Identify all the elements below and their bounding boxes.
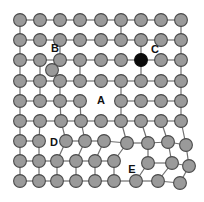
lattice-diagram: BCADE bbox=[0, 0, 204, 202]
lattice-atom bbox=[33, 135, 46, 148]
lattice-atom bbox=[115, 54, 128, 67]
lattice-atom bbox=[108, 155, 121, 168]
lattice-atom bbox=[175, 95, 188, 108]
interstitial-atom bbox=[46, 64, 59, 77]
lattice-atom bbox=[135, 34, 148, 47]
lattice-atom bbox=[115, 34, 128, 47]
lattice-atom bbox=[89, 175, 102, 188]
lattice-atom bbox=[14, 135, 27, 148]
lattice-atom bbox=[74, 54, 87, 67]
lattice-atom bbox=[130, 175, 143, 188]
caption-strip bbox=[0, 194, 204, 202]
lattice-atom bbox=[33, 155, 46, 168]
lattice-atom bbox=[175, 14, 188, 27]
lattice-atom bbox=[142, 157, 155, 170]
lattice-atom bbox=[51, 175, 64, 188]
defect-label-c: C bbox=[151, 43, 159, 55]
lattice-atom bbox=[155, 115, 168, 128]
lattice-atom bbox=[135, 14, 148, 27]
lattice-atom bbox=[14, 95, 27, 108]
defect-label-d: D bbox=[50, 136, 58, 148]
lattice-atom bbox=[34, 95, 47, 108]
lattice-atom bbox=[14, 54, 27, 67]
lattice-atom bbox=[14, 155, 27, 168]
lattice-atom bbox=[54, 95, 67, 108]
lattice-atom bbox=[135, 75, 148, 88]
lattice-atom bbox=[166, 157, 179, 170]
lattice-atom bbox=[95, 34, 108, 47]
lattice-atom bbox=[70, 175, 83, 188]
lattice-atom bbox=[142, 137, 155, 150]
lattice-atom bbox=[155, 95, 168, 108]
lattice-atom bbox=[175, 34, 188, 47]
lattice-atom bbox=[14, 14, 27, 27]
lattice-atom bbox=[115, 14, 128, 27]
defect-label-a: A bbox=[97, 94, 105, 106]
lattice-atom bbox=[155, 14, 168, 27]
lattice-atom bbox=[34, 115, 47, 128]
lattice-defect-figure: BCADE bbox=[0, 0, 204, 202]
lattice-atom bbox=[75, 115, 88, 128]
lattice-atom bbox=[162, 136, 175, 149]
lattice-atom bbox=[79, 135, 92, 148]
lattice-atom bbox=[108, 175, 121, 188]
lattice-atom bbox=[33, 175, 46, 188]
lattice-atom bbox=[115, 75, 128, 88]
lattice-atom bbox=[95, 75, 108, 88]
lattice-atom bbox=[175, 75, 188, 88]
lattice-atom bbox=[89, 155, 102, 168]
lattice-atom bbox=[155, 75, 168, 88]
lattice-atom bbox=[34, 34, 47, 47]
lattice-atom bbox=[34, 75, 47, 88]
lattice-atom bbox=[14, 34, 27, 47]
lattice-atom bbox=[34, 14, 47, 27]
lattice-atom bbox=[175, 54, 188, 67]
lattice-atom bbox=[70, 155, 83, 168]
defect-label-b: B bbox=[51, 42, 59, 54]
lattice-atom bbox=[14, 75, 27, 88]
defect-label-e: E bbox=[128, 163, 135, 175]
lattice-atom bbox=[74, 14, 87, 27]
lattice-atom bbox=[135, 115, 148, 128]
lattice-atom bbox=[98, 135, 111, 148]
lattice-atom bbox=[14, 175, 27, 188]
substitutional-impurity-atom bbox=[135, 54, 148, 67]
lattice-atom bbox=[14, 115, 27, 128]
lattice-atom bbox=[183, 160, 196, 173]
lattice-atom bbox=[152, 175, 165, 188]
lattice-atom bbox=[180, 139, 193, 152]
lattice-atom bbox=[74, 75, 87, 88]
lattice-atom bbox=[121, 137, 134, 150]
lattice-atom bbox=[55, 115, 68, 128]
lattice-atom bbox=[174, 177, 187, 190]
lattice-atom bbox=[74, 34, 87, 47]
lattice-atom bbox=[54, 75, 67, 88]
lattice-atom bbox=[175, 115, 188, 128]
lattice-atom bbox=[60, 135, 73, 148]
lattice-atom bbox=[95, 14, 108, 27]
lattice-atom bbox=[34, 54, 47, 67]
lattice-atom bbox=[74, 95, 87, 108]
lattice-atom bbox=[155, 54, 168, 67]
lattice-atom bbox=[115, 95, 128, 108]
lattice-atom bbox=[95, 115, 108, 128]
lattice-atom bbox=[115, 115, 128, 128]
lattice-atom bbox=[135, 95, 148, 108]
lattice-atom bbox=[54, 14, 67, 27]
lattice-atom bbox=[51, 155, 64, 168]
lattice-atom bbox=[95, 54, 108, 67]
